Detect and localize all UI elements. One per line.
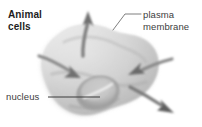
animal-cell-diagram: Animal cells plasma membrane nucleus <box>0 0 202 127</box>
label-plasma-membrane-line2: membrane <box>143 21 189 33</box>
plasma-membrane-leader-line <box>113 14 141 30</box>
label-animal-cells: Animal cells <box>8 9 42 32</box>
arrow-out-bottom-right <box>130 87 174 113</box>
label-animal-cells-line2: cells <box>8 21 42 33</box>
label-animal-cells-line1: Animal <box>8 9 42 20</box>
label-plasma-membrane: plasma membrane <box>143 9 189 32</box>
label-plasma-membrane-line1: plasma <box>143 9 174 20</box>
label-nucleus: nucleus <box>6 92 39 103</box>
